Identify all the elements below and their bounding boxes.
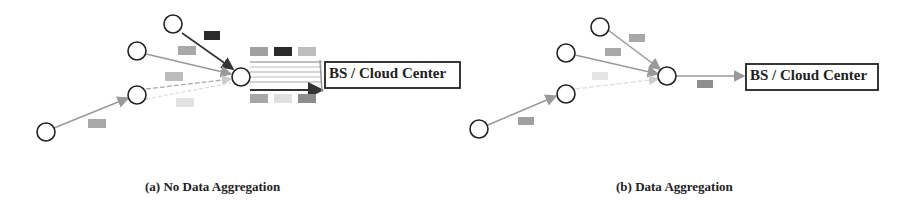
packet <box>629 34 645 42</box>
aggregated-packet <box>697 80 713 88</box>
edge <box>575 79 658 89</box>
packet <box>250 47 268 56</box>
packet <box>204 31 220 40</box>
packet <box>298 47 316 56</box>
packet <box>592 72 608 80</box>
sensor-node <box>128 42 146 60</box>
sensor-node <box>557 85 575 103</box>
sensor-node <box>591 18 609 36</box>
sensor-node <box>37 123 55 141</box>
caption-a: (a) No Data Aggregation <box>145 179 280 195</box>
packet <box>250 94 268 103</box>
packet <box>518 117 534 125</box>
packet <box>274 47 292 56</box>
destination-label-a: BS / Cloud Center <box>329 65 446 82</box>
edge <box>146 83 231 99</box>
sensor-node <box>128 86 146 104</box>
destination-label-b: BS / Cloud Center <box>750 67 867 84</box>
packet <box>165 72 183 81</box>
sensor-node <box>470 120 488 138</box>
aggregator-node <box>658 67 676 85</box>
packet <box>88 119 106 128</box>
link-bundle <box>320 60 322 92</box>
edge <box>146 79 231 89</box>
packet <box>298 94 316 103</box>
hub-node <box>232 68 250 86</box>
aggregation-diagram <box>0 0 908 213</box>
packet <box>274 94 292 103</box>
packet <box>605 48 621 56</box>
packet <box>176 98 194 107</box>
packet <box>178 46 196 55</box>
sensor-node <box>557 44 575 62</box>
edge <box>146 54 231 74</box>
sensor-node <box>164 15 182 33</box>
caption-b: (b) Data Aggregation <box>616 179 733 195</box>
